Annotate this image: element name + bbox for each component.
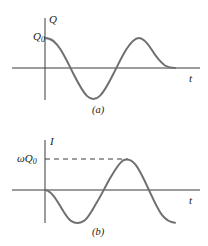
y-tick-label-b-base: ωQ bbox=[17, 152, 33, 164]
y-axis-label-b: I bbox=[50, 136, 54, 147]
panel-caption-b: (b) bbox=[92, 226, 104, 237]
y-tick-label-a-base: Q bbox=[33, 30, 41, 42]
physics-figure: Q Q0 t (a) I ωQ0 t (b) bbox=[0, 0, 208, 246]
y-tick-label-a-subscript: 0 bbox=[41, 35, 45, 44]
y-tick-label-a: Q0 bbox=[33, 31, 45, 44]
y-tick-label-b: ωQ0 bbox=[17, 153, 37, 166]
x-axis-label-b: t bbox=[189, 195, 192, 206]
chart-panel-b: I ωQ0 t (b) bbox=[0, 123, 208, 246]
x-axis-label-a: t bbox=[189, 73, 192, 84]
curve-negative-sine-b bbox=[45, 159, 175, 223]
curve-cosine-a bbox=[45, 38, 175, 99]
chart-panel-a: Q Q0 t (a) bbox=[0, 0, 208, 123]
y-tick-label-b-subscript: 0 bbox=[33, 157, 37, 166]
panel-caption-a: (a) bbox=[92, 104, 104, 115]
y-axis-label-a: Q bbox=[49, 14, 57, 25]
